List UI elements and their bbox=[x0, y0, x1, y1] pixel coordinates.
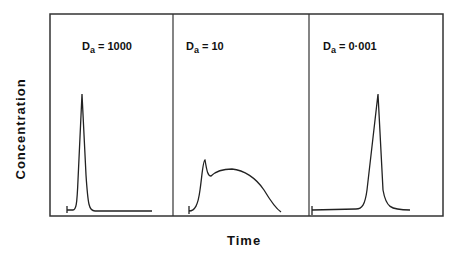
chart-svg bbox=[0, 0, 461, 257]
curve-da-1000 bbox=[67, 94, 152, 213]
x-axis-label: Time bbox=[227, 233, 261, 248]
curve-da-0001 bbox=[312, 94, 410, 215]
y-axis-label: Concentration bbox=[13, 80, 28, 180]
panel-label-1: Da = 1000 bbox=[82, 40, 132, 55]
panel-label-3: Da = 0·001 bbox=[323, 40, 377, 55]
curve-da-10 bbox=[189, 160, 281, 214]
panel-label-2: Da = 10 bbox=[186, 40, 224, 55]
